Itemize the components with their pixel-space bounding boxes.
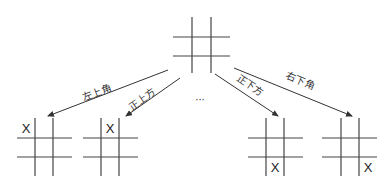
x-mark: X	[22, 121, 31, 136]
x-mark: X	[106, 121, 115, 136]
edge-label: 左上角	[80, 81, 112, 103]
x-mark: X	[364, 160, 373, 175]
edge-label: 正下方	[234, 71, 266, 98]
child-board-2: X	[248, 118, 303, 176]
edge-label: 右下角	[284, 69, 316, 91]
diagram-svg: X左上角X正上方X正下方X右下角 ···	[0, 0, 391, 193]
child-board-1: X	[83, 118, 138, 176]
child-boards: X左上角X正上方X正下方X右下角	[17, 68, 377, 176]
ellipsis: ···	[195, 94, 205, 105]
child-board-0: X	[17, 118, 72, 176]
root-grid	[173, 17, 230, 73]
root-board	[173, 17, 230, 73]
x-mark: X	[271, 160, 280, 175]
child-board-3: X	[322, 118, 377, 176]
edge-label: 正上方	[126, 85, 157, 112]
game-tree-diagram: X左上角X正上方X正下方X右下角 ···	[0, 0, 391, 193]
